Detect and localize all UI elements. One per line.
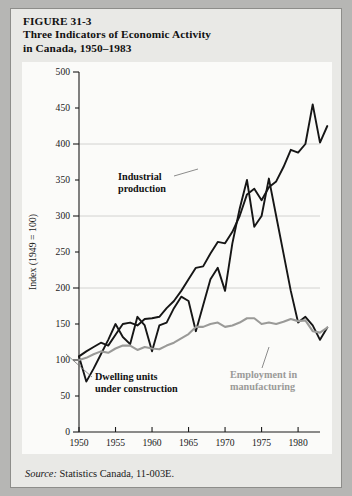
svg-text:300: 300 bbox=[56, 210, 71, 221]
figure-panel: FIGURE 31-3 Three Indicators of Economic… bbox=[10, 8, 342, 488]
svg-text:1950: 1950 bbox=[69, 437, 88, 448]
svg-text:200: 200 bbox=[56, 282, 71, 293]
line-chart: 050100150200250300350400450500 195019551… bbox=[22, 62, 332, 454]
y-axis-ticks-group bbox=[73, 72, 79, 432]
figure-title-line-1: Three Indicators of Economic Activity bbox=[23, 28, 335, 41]
svg-text:50: 50 bbox=[60, 390, 70, 401]
svg-text:1955: 1955 bbox=[106, 437, 125, 448]
figure-caption: FIGURE 31-3 Three Indicators of Economic… bbox=[23, 15, 335, 55]
figure-title-line-2: in Canada, 1950–1983 bbox=[23, 42, 335, 55]
source-text: Statistics Canada, 11-003E. bbox=[60, 468, 174, 479]
annotations-group: IndustrialproductionDwelling unitsunder … bbox=[66, 169, 297, 394]
svg-text:500: 500 bbox=[56, 66, 71, 77]
source-note: Source: Statistics Canada, 11-003E. bbox=[25, 468, 335, 479]
svg-text:400: 400 bbox=[56, 138, 71, 149]
x-axis-tick-labels: 1950195519601965197019751980 bbox=[69, 437, 307, 448]
y-axis-title: Index (1949 = 100) bbox=[27, 214, 39, 290]
svg-text:under construction: under construction bbox=[95, 383, 178, 394]
svg-text:1965: 1965 bbox=[179, 437, 198, 448]
svg-text:150: 150 bbox=[56, 318, 71, 329]
series-line-1 bbox=[79, 179, 327, 382]
svg-text:production: production bbox=[118, 183, 166, 194]
svg-text:1980: 1980 bbox=[288, 437, 307, 448]
svg-text:Industrial: Industrial bbox=[118, 171, 162, 182]
svg-text:1970: 1970 bbox=[215, 437, 234, 448]
figure-number: FIGURE 31-3 bbox=[23, 15, 335, 28]
svg-text:1960: 1960 bbox=[142, 437, 161, 448]
svg-text:Dwelling units: Dwelling units bbox=[95, 371, 158, 382]
svg-text:250: 250 bbox=[56, 246, 71, 257]
svg-text:Employment in: Employment in bbox=[230, 369, 297, 380]
svg-text:350: 350 bbox=[56, 174, 71, 185]
x-axis-ticks-group bbox=[79, 427, 298, 432]
chart-plot-card: 050100150200250300350400450500 195019551… bbox=[22, 62, 332, 454]
series-group bbox=[79, 104, 327, 381]
svg-text:1975: 1975 bbox=[252, 437, 271, 448]
svg-text:0: 0 bbox=[65, 426, 70, 437]
svg-text:450: 450 bbox=[56, 102, 71, 113]
svg-text:manufacturing: manufacturing bbox=[230, 381, 295, 392]
y-axis-tick-labels: 050100150200250300350400450500 bbox=[56, 66, 71, 437]
source-prefix: Source: bbox=[25, 468, 57, 479]
